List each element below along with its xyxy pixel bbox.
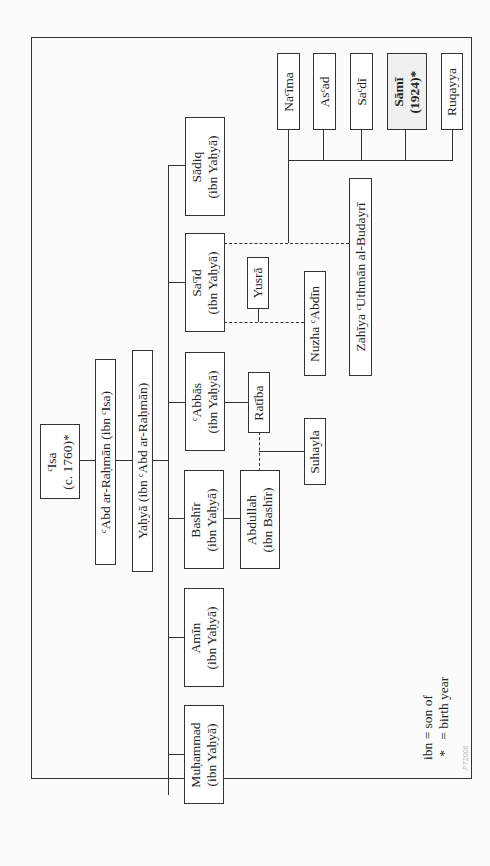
person-suhayla: Suhayla	[304, 418, 326, 485]
person-sami: Sāmī(1924)*	[387, 53, 427, 130]
connector	[116, 460, 132, 461]
person-abdullah: Abdullah(ibn Bashīr)	[240, 470, 280, 569]
person-asad: Asᶜad	[313, 53, 336, 130]
marriage-line	[224, 322, 304, 323]
connector	[168, 754, 185, 755]
watermark: PT2006	[462, 745, 469, 770]
connector	[168, 282, 185, 283]
person-nuzha: Nuzha ᶜAbdīn	[304, 271, 326, 376]
connector	[224, 402, 249, 403]
person-isa: ᶜIsa(c. 1760)*	[40, 424, 80, 499]
connector	[259, 451, 304, 452]
person-bashir: Bashīr(ibn Yaḥyā)	[184, 470, 224, 569]
marriage-line	[224, 243, 349, 244]
connector	[153, 460, 168, 461]
person-ratiba: Ratība	[248, 372, 270, 433]
person-yahya: Yaḥyā (ibn ᶜAbd ar-Raḥmān)	[132, 350, 153, 572]
connector	[224, 518, 240, 519]
connector	[168, 637, 185, 638]
connector	[361, 130, 362, 160]
person-said: Saᶜīd(ibn Yaḥyā)	[185, 233, 225, 332]
person-yusra: Yusrā	[247, 257, 269, 309]
connector	[258, 308, 259, 322]
person-abd-ar-rahman: ᶜAbd ar-Raḥmān (ibn ᶜIsa)	[95, 359, 116, 565]
sibling-spine	[168, 165, 169, 795]
connector	[405, 130, 406, 160]
connector	[79, 460, 95, 461]
connector	[452, 130, 453, 160]
sibling-spine	[288, 160, 453, 161]
person-amin: Amīn(ibn Yaḥyā)	[184, 588, 224, 687]
person-sadiq: Sādiq(ibn Yaḥyā)	[185, 117, 225, 216]
connector	[168, 402, 185, 403]
legend: ibn = son of * = birth year	[420, 677, 452, 760]
person-muhammad: Muḥammad(ibn Yaḥyā)	[184, 705, 224, 804]
person-naima: Naᶜīma	[277, 53, 300, 130]
connector	[323, 130, 324, 160]
person-abbas: ᶜAbbās(ibn Yaḥyā)	[185, 352, 225, 451]
connector	[168, 518, 185, 519]
person-sadi: Saᶜdī	[350, 53, 373, 130]
connector	[288, 130, 289, 160]
person-ruqayya: Ruqayya	[441, 53, 463, 130]
person-zahiya: Zahīya ᶜUthmān al-Budayrī	[349, 178, 372, 376]
connector	[168, 165, 185, 166]
